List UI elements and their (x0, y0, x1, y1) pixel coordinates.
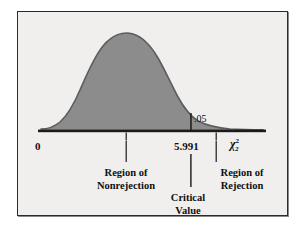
region-rejection-line-2: Rejection (196, 180, 288, 193)
chi-square-curve-fill (41, 33, 263, 130)
region-of-nonrejection-label: Region of Nonrejection (56, 167, 196, 192)
critical-value-divider (190, 113, 192, 130)
figure-root: 0 .05 5.991 χ22 Region of Nonrejection R… (0, 0, 305, 229)
alpha-area-label: .05 (194, 113, 207, 124)
region-nonrejection-line-2: Nonrejection (56, 180, 196, 193)
chi-subscript: 2 (235, 145, 239, 153)
axis-label-chi-square: χ22 (230, 138, 239, 154)
figure-panel: 0 .05 5.991 χ22 Region of Nonrejection R… (17, 11, 288, 216)
leader-rejection (216, 141, 217, 162)
critical-value-label: Critical Value (146, 192, 230, 217)
axis-label-critical-value: 5.991 (174, 140, 199, 152)
region-nonrejection-line-1: Region of (56, 167, 196, 180)
x-axis-line (38, 130, 266, 133)
critical-value-line-1: Critical (146, 192, 230, 205)
chi-square-plot: 0 .05 5.991 χ22 Region of Nonrejection R… (18, 12, 289, 217)
chi-superscript: 2 (236, 137, 240, 145)
tick-nonrejection (126, 133, 127, 141)
critical-value-line-2: Value (146, 205, 230, 218)
leader-nonrejection (126, 141, 127, 162)
region-rejection-line-1: Region of (196, 167, 288, 180)
axis-label-zero: 0 (35, 140, 41, 152)
tick-rejection (216, 133, 217, 141)
region-of-rejection-label: Region of Rejection (196, 167, 288, 192)
